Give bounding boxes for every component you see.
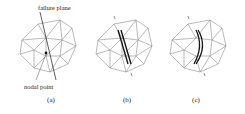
caption-a: (a) (47, 96, 55, 104)
nodal-point-leader (36, 54, 46, 80)
mesh-panel-c (170, 20, 226, 72)
diagram-canvas: failure plane nodal point (a) (b) (c) (0, 0, 245, 114)
failure-plane-label: failure plane (38, 4, 71, 11)
caption-b: (b) (123, 96, 132, 104)
failure-curve-c (194, 30, 203, 64)
nodal-point-label: nodal point (24, 83, 54, 90)
nodal-point-marker (45, 52, 48, 55)
caption-c: (c) (192, 96, 200, 104)
mesh-panel-b (96, 20, 152, 72)
